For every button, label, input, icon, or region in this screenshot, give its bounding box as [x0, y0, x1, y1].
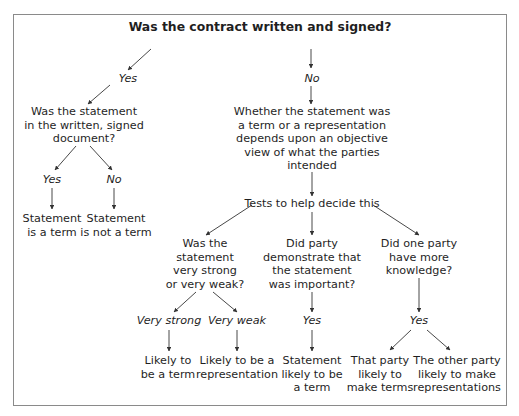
written-signed-question: Was the statement in the written, signed… [24, 105, 144, 146]
outcome-statement-is-term: Statement is a term [23, 212, 82, 239]
arrow-written-to-no [90, 146, 112, 170]
outcome-statement-not-term: Statement is not a term [80, 212, 151, 239]
test-knowledge-question: Did one party have more knowledge? [381, 237, 457, 278]
outcome-likely-representation: Likely to be a representation [196, 354, 278, 381]
branch-label-yes: Yes [119, 72, 137, 86]
answer-very-weak: Very weak [208, 314, 266, 328]
arrow-title-to-yes [128, 49, 151, 70]
test-strength-question: Was the statement very strong or very we… [166, 237, 245, 291]
objective-view-explanation: Whether the statement was a term or a re… [234, 105, 390, 173]
tests-label: Tests to help decide this [244, 197, 379, 211]
written-no-label: No [106, 173, 121, 187]
arrow-written-to-yes [55, 146, 76, 170]
arrow-yes-to-written-question [88, 85, 110, 104]
arrow-knowledge-yes-to-terms [390, 330, 411, 350]
branch-label-no: No [304, 72, 319, 86]
arrow-knowledge-yes-to-representations [427, 330, 450, 350]
outcome-that-party-terms: That party likely to make terms [347, 354, 414, 395]
written-yes-label: Yes [43, 173, 61, 187]
answer-importance-yes: Yes [303, 314, 321, 328]
test-importance-question: Did party demonstrate that the statement… [263, 237, 361, 291]
outcome-other-party-representations: The other party likely to make represent… [413, 354, 501, 395]
answer-very-strong: Very strong [137, 314, 202, 328]
outcome-statement-likely-term: Statement likely to be a term [281, 354, 342, 395]
diagram-title: Was the contract written and signed? [129, 20, 392, 34]
arrow-strength-to-strong [174, 292, 196, 312]
arrow-tests-to-knowledge [373, 205, 419, 235]
arrow-strength-to-weak [213, 292, 237, 312]
outcome-likely-term: Likely to be a term [141, 354, 196, 381]
answer-knowledge-yes: Yes [410, 314, 428, 328]
